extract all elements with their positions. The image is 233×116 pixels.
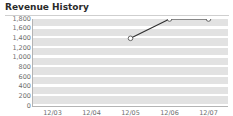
y-axis-tick: 1,000 xyxy=(1,54,31,61)
data-point-marker xyxy=(167,19,172,21)
x-axis-tick: 12/07 xyxy=(189,109,229,116)
x-axis-tick: 12/05 xyxy=(111,109,151,116)
y-axis-tick: 800 xyxy=(1,64,31,71)
revenue-line xyxy=(131,19,209,38)
y-axis-tick: 1,200 xyxy=(1,45,31,52)
x-axis-tick: 12/03 xyxy=(33,109,73,116)
data-point-marker xyxy=(128,36,133,41)
y-axis-tick: 200 xyxy=(1,93,31,100)
series-overlay xyxy=(33,19,228,106)
x-axis-tick: 12/06 xyxy=(150,109,190,116)
data-point-marker xyxy=(206,19,211,21)
x-axis-tick-labels: 12/0312/0412/0512/0612/07 xyxy=(33,109,228,116)
x-axis-line xyxy=(32,106,228,107)
y-axis-tick-labels: 02004006008001,0001,2001,4001,6001,800 xyxy=(0,17,31,109)
y-axis-tick: 1,400 xyxy=(1,35,31,42)
page-title: Revenue History xyxy=(5,2,89,12)
x-axis-tick: 12/04 xyxy=(72,109,112,116)
plot-area xyxy=(33,19,228,106)
revenue-history-chart: 02004006008001,0001,2001,4001,6001,800 1… xyxy=(0,17,233,116)
y-axis-tick: 0 xyxy=(1,103,31,110)
y-axis-tick: 600 xyxy=(1,74,31,81)
y-axis-tick: 1,800 xyxy=(1,16,31,23)
y-axis-tick: 400 xyxy=(1,83,31,90)
revenue-history-widget: Revenue History 02004006008001,0001,2001… xyxy=(0,0,233,116)
revenue-markers xyxy=(128,19,211,41)
y-axis-tick: 1,600 xyxy=(1,25,31,32)
title-divider xyxy=(5,15,229,16)
